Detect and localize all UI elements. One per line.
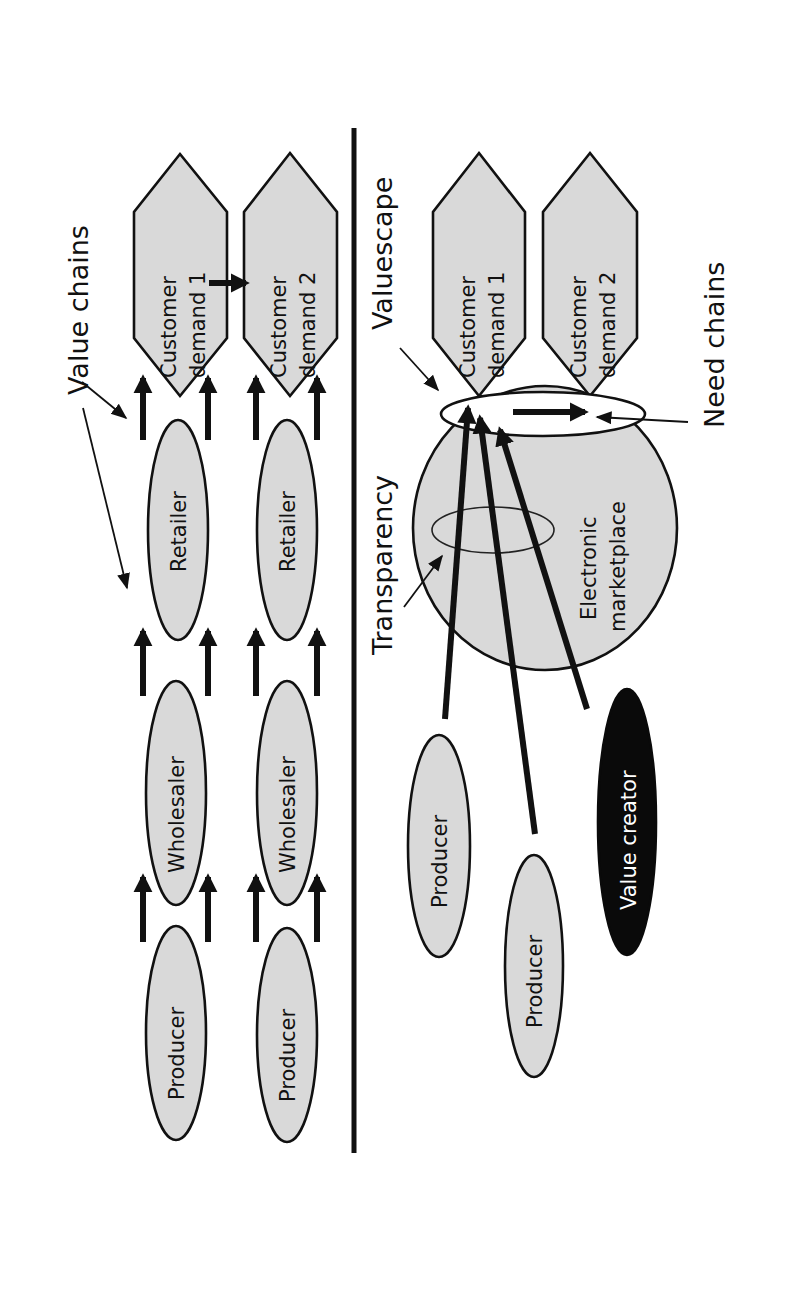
valuescape-demand-2-line1: Customer bbox=[567, 276, 591, 378]
customer-demand-1-line1: Customer bbox=[157, 276, 181, 378]
customer-demand-1-line2: demand 1 bbox=[186, 272, 210, 378]
value-chains-vs-valuescape-diagram: Value chains Customer demand 1 Retailer … bbox=[0, 0, 793, 1297]
value-chains-panel: Value chains Customer demand 1 Retailer … bbox=[63, 153, 337, 1142]
marketplace-line2: marketplace bbox=[606, 501, 630, 632]
need-chains-label: Need chains bbox=[699, 262, 730, 428]
customer-demand-2-line2: demand 2 bbox=[296, 272, 320, 378]
value-creator-label: Value creator bbox=[617, 770, 641, 910]
customer-demand-2-line1: Customer bbox=[267, 276, 291, 378]
valuescape-pointer-arrow bbox=[400, 348, 438, 390]
market-producer-2-label: Producer bbox=[523, 935, 547, 1028]
producer-1-label: Producer bbox=[165, 1007, 189, 1100]
valuescape-panel: Electronic marketplace Customer demand 1… bbox=[367, 153, 730, 1077]
valuescape-label: Valuescape bbox=[367, 177, 398, 330]
valuescape-demand-1-line2: demand 1 bbox=[485, 272, 509, 378]
producer-2-label: Producer bbox=[276, 1009, 300, 1102]
marketplace-line1: Electronic bbox=[577, 516, 601, 620]
wholesaler-2-label: Wholesaler bbox=[276, 756, 300, 873]
valuescape-demand-1-line1: Customer bbox=[456, 276, 480, 378]
market-producer-1-label: Producer bbox=[428, 815, 452, 908]
value-chain-2: Customer demand 2 Retailer Wholesaler Pr… bbox=[244, 153, 337, 1142]
retailer-2-label: Retailer bbox=[276, 491, 300, 572]
diagram-canvas: Value chains Customer demand 1 Retailer … bbox=[0, 0, 793, 1297]
value-chain-1: Customer demand 1 Retailer Wholesaler Pr… bbox=[134, 154, 227, 1140]
value-chains-title: Value chains bbox=[63, 225, 94, 395]
wholesaler-1-label: Wholesaler bbox=[165, 756, 189, 873]
transparency-label: Transparency bbox=[367, 475, 398, 656]
retailer-1-label: Retailer bbox=[167, 491, 191, 572]
valuescape-demand-2-line2: demand 2 bbox=[596, 272, 620, 378]
value-chains-pointer-arrow-1 bbox=[82, 382, 126, 418]
value-chains-pointer-arrow-2 bbox=[83, 408, 127, 588]
